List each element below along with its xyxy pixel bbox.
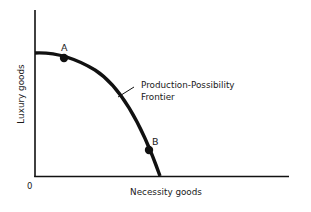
point-a-marker [60, 54, 68, 62]
point-b-marker [145, 146, 153, 154]
origin-label: 0 [27, 181, 32, 191]
ppf-curve [35, 53, 160, 176]
y-axis-label: Luxury goods [16, 64, 26, 124]
point-a-label: A [61, 42, 68, 53]
ppf-diagram: A B Production-Possibility Frontier Luxu… [0, 0, 311, 212]
x-axis-label: Necessity goods [130, 187, 202, 197]
curve-label-line2: Frontier [141, 92, 175, 102]
curve-label-leader [118, 87, 134, 97]
curve-label-line1: Production-Possibility [141, 80, 235, 90]
point-b-label: B [152, 136, 159, 147]
